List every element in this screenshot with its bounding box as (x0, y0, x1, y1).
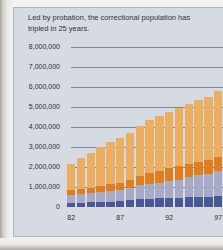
bar-segment-prison (136, 185, 144, 199)
stacked-bar-1985 (96, 147, 104, 207)
bar-segment-parole (145, 173, 153, 184)
bar-segment-probation (204, 97, 212, 160)
bar-segment-prison (145, 184, 153, 199)
bar-segment-parole (155, 171, 163, 183)
bar-segment-jail (96, 202, 104, 207)
bar-segment-probation (116, 138, 124, 183)
bar-segment-prison (165, 181, 173, 198)
stacked-bar-1986 (106, 142, 114, 207)
bar-segment-prison (67, 195, 75, 203)
bar-segment-parole (175, 166, 183, 180)
bar-segment-prison (204, 174, 212, 197)
bar-segment-jail (77, 203, 85, 207)
stacked-bar-1996 (204, 97, 212, 207)
x-axis-tick-label: 97 (208, 214, 223, 221)
stacked-bar-1997 (214, 91, 222, 207)
bar-segment-jail (126, 200, 134, 207)
bar-segment-prison (185, 177, 193, 197)
stacked-bar-1982 (67, 164, 75, 207)
bar-segment-jail (87, 202, 95, 207)
stacked-bar-1992 (165, 112, 173, 207)
y-axis-tick-label: 7,000,000 (14, 63, 60, 70)
bar-segment-probation (214, 91, 222, 157)
stacked-bar-1988 (126, 133, 134, 207)
bar-segment-probation (126, 133, 134, 180)
bar-segment-jail (67, 203, 75, 207)
bar-segment-jail (116, 201, 124, 207)
bar-segment-prison (126, 188, 134, 200)
bar-segment-parole (214, 157, 222, 171)
bar-segment-probation (136, 126, 144, 176)
chart-card: Led by probation, the correctional popul… (13, 7, 223, 237)
bar-segment-parole (116, 183, 124, 190)
bar-segment-jail (194, 197, 202, 207)
y-axis-tick-label: 4,000,000 (14, 123, 60, 130)
bar-segment-parole (126, 180, 134, 188)
stacked-bar-1995 (194, 100, 202, 207)
bar-segment-jail (165, 198, 173, 207)
bar-segment-prison (106, 191, 114, 202)
bar-segment-parole (165, 168, 173, 181)
bar-segment-probation (67, 164, 75, 191)
bar-segment-prison (96, 192, 104, 202)
bar-segment-probation (96, 147, 104, 186)
bar-segment-jail (214, 196, 222, 207)
bar-segment-prison (155, 183, 163, 199)
bar-segment-parole (136, 176, 144, 185)
bar-segment-probation (165, 112, 173, 168)
bar-segment-probation (175, 108, 183, 166)
bar-segment-parole (204, 160, 212, 174)
stacked-bar-1994 (185, 104, 193, 207)
x-axis-tick-label: 92 (159, 214, 179, 221)
bar-segment-jail (155, 198, 163, 207)
stacked-bar-1989 (136, 126, 144, 207)
bar-segment-jail (136, 199, 144, 207)
stacked-bar-1993 (175, 108, 183, 207)
bar-segment-probation (77, 158, 85, 190)
bar-segment-jail (185, 197, 193, 207)
bar-segment-probation (87, 153, 95, 188)
bar-segment-jail (106, 202, 114, 207)
bar-segment-prison (194, 175, 202, 197)
stacked-bar-1983 (77, 158, 85, 207)
y-axis-tick-label: 6,000,000 (14, 83, 60, 90)
stacked-bar-1984 (87, 153, 95, 207)
bar-segment-probation (185, 104, 193, 164)
bar-segment-prison (87, 193, 95, 202)
gridline (71, 47, 223, 48)
gridline (71, 87, 223, 88)
stacked-bar-1990 (145, 120, 153, 207)
x-axis-tick-label: 82 (61, 214, 81, 221)
bar-segment-parole (106, 184, 114, 191)
bar-segment-jail (204, 197, 212, 207)
stacked-bar-1991 (155, 116, 163, 207)
y-axis-tick-label: 0 (14, 203, 60, 210)
y-axis-tick-label: 1,000,000 (14, 183, 60, 190)
page-background: Led by probation, the correctional popul… (0, 0, 223, 250)
bar-segment-parole (185, 164, 193, 178)
bar-segment-jail (175, 198, 183, 207)
stacked-bar-1987 (116, 138, 124, 207)
x-axis-tick-label: 87 (110, 214, 130, 221)
bar-segment-parole (194, 162, 202, 176)
bar-segment-prison (214, 171, 222, 196)
bar-segment-probation (106, 142, 114, 184)
gridline (71, 67, 223, 68)
bar-segment-prison (77, 194, 85, 202)
bar-segment-probation (145, 120, 153, 173)
bar-segment-prison (175, 180, 183, 198)
plot-area: 8,000,0007,000,0006,000,0005,000,0004,00… (14, 8, 223, 236)
bar-segment-jail (145, 199, 153, 207)
bar-segment-probation (194, 100, 202, 162)
bar-segment-prison (116, 190, 124, 201)
y-axis-tick-label: 5,000,000 (14, 103, 60, 110)
y-axis-tick-label: 2,000,000 (14, 163, 60, 170)
y-axis-tick-label: 8,000,000 (14, 43, 60, 50)
bar-segment-probation (155, 116, 163, 171)
y-axis-tick-label: 3,000,000 (14, 143, 60, 150)
